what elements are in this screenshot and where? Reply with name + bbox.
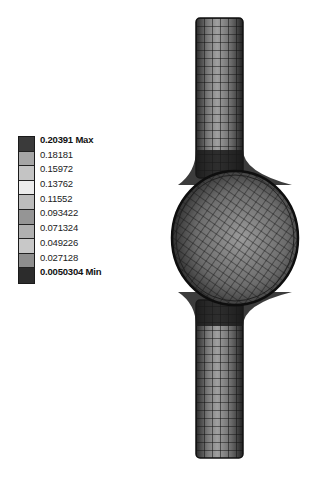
fea-mesh-model [0, 0, 319, 477]
sphere-bulb [170, 170, 300, 306]
